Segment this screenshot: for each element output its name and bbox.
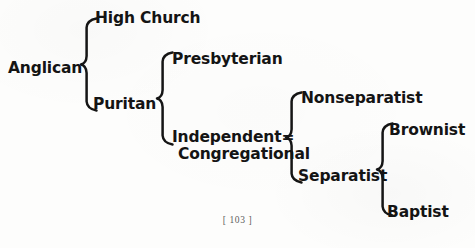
node-separatist: Separatist bbox=[298, 168, 387, 184]
node-anglican: Anglican bbox=[8, 60, 82, 76]
node-independent-line2: Congregational bbox=[172, 146, 310, 163]
node-brownist: Brownist bbox=[389, 122, 465, 138]
page-number: [ 103 ] bbox=[0, 215, 475, 225]
node-nonseparatist: Nonseparatist bbox=[301, 90, 422, 106]
node-independent-line1: Independent= bbox=[172, 128, 294, 146]
node-independent-congregational: Independent= Congregational bbox=[172, 129, 310, 164]
node-high-church: High Church bbox=[95, 10, 200, 26]
node-puritan: Puritan bbox=[93, 96, 156, 112]
node-presbyterian: Presbyterian bbox=[172, 51, 283, 67]
scanned-page: Anglican High Church Puritan Presbyteria… bbox=[0, 0, 475, 248]
